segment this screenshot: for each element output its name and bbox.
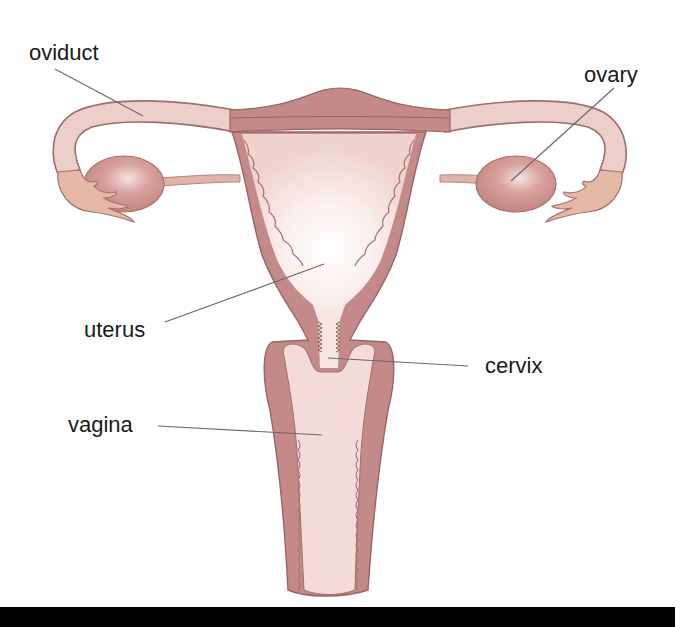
- uterine-fundus: [230, 88, 450, 132]
- ovarian-ligament-left: [160, 175, 240, 186]
- fimbriae-right: [546, 170, 622, 222]
- reproductive-diagram: oviduct ovary uterus cervix vagina: [0, 0, 687, 627]
- ovary-right: [476, 156, 556, 212]
- svg-text:oviduct: oviduct: [29, 40, 99, 65]
- svg-text:vagina: vagina: [68, 412, 134, 437]
- svg-text:cervix: cervix: [485, 353, 542, 378]
- footer-bar: [0, 607, 675, 627]
- svg-text:ovary: ovary: [584, 62, 638, 87]
- cervical-canal: [318, 318, 340, 368]
- svg-text:uterus: uterus: [84, 317, 145, 342]
- uterus-cavity: [242, 134, 416, 320]
